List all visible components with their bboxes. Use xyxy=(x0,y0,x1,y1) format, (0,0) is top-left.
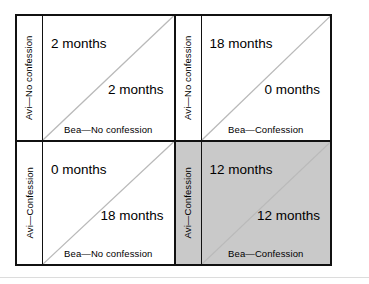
payoff-bea: 0 months xyxy=(264,82,320,97)
bottom-divider-rule xyxy=(0,277,369,278)
row-label-strip: Avi—Confession xyxy=(176,142,202,264)
payoff-avi: 18 months xyxy=(210,36,273,51)
row-label-avi: Avi—No confession xyxy=(25,36,35,120)
payoff-matrix: Avi—No confession 2 months 2 months Bea—… xyxy=(15,14,332,266)
matrix-cell-bottom-right[interactable]: Avi—Confession 12 months 12 months Bea—C… xyxy=(174,140,331,264)
cell-body: 12 months 12 months Bea—Confession xyxy=(202,142,331,264)
row-label-strip: Avi—No confession xyxy=(176,16,202,140)
cell-body: 18 months 0 months Bea—Confession xyxy=(202,16,331,140)
matrix-cell-top-left[interactable]: Avi—No confession 2 months 2 months Bea—… xyxy=(17,16,174,140)
payoff-bea: 18 months xyxy=(100,208,163,223)
cell-body: 2 months 2 months Bea—No confession xyxy=(43,16,174,140)
row-label-avi: Avi—Confession xyxy=(183,167,193,238)
col-label-bea: Bea—No confession xyxy=(43,248,174,259)
col-label-bea: Bea—Confession xyxy=(202,124,331,135)
diagonal-divider-icon xyxy=(43,142,174,264)
col-label-bea: Bea—No confession xyxy=(43,124,174,135)
matrix-cell-bottom-left[interactable]: Avi—Confession 0 months 18 months Bea—No… xyxy=(17,140,174,264)
payoff-bea: 12 months xyxy=(257,208,320,223)
col-label-bea: Bea—Confession xyxy=(202,248,331,259)
row-label-strip: Avi—No confession xyxy=(17,16,43,140)
payoff-avi: 2 months xyxy=(51,36,107,51)
payoff-bea: 2 months xyxy=(108,82,164,97)
row-label-avi: Avi—No confession xyxy=(183,36,193,120)
payoff-avi: 0 months xyxy=(51,162,107,177)
diagonal-divider-icon xyxy=(202,142,331,264)
payoff-avi: 12 months xyxy=(210,162,273,177)
diagonal-divider-icon xyxy=(202,16,331,140)
row-label-avi: Avi—Confession xyxy=(25,167,35,238)
cell-body: 0 months 18 months Bea—No confession xyxy=(43,142,174,264)
matrix-cell-top-right[interactable]: Avi—No confession 18 months 0 months Bea… xyxy=(174,16,331,140)
row-label-strip: Avi—Confession xyxy=(17,142,43,264)
diagonal-divider-icon xyxy=(43,16,174,140)
